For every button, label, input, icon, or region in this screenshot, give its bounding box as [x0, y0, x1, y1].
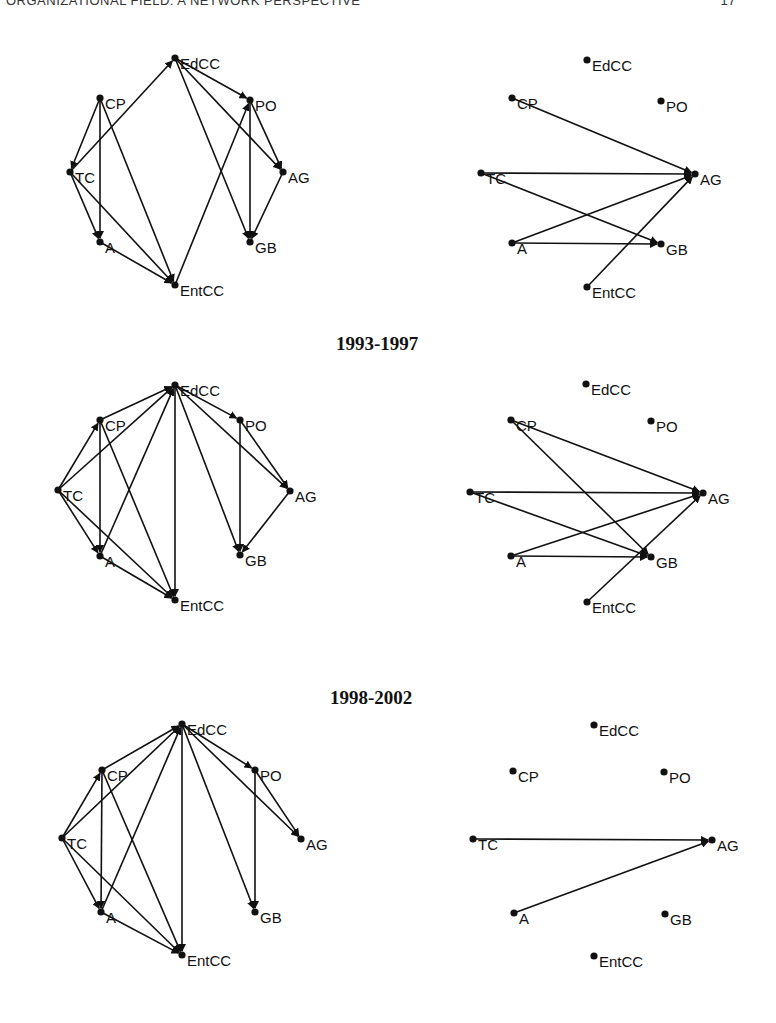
node-label-AG: AG — [717, 837, 739, 854]
node-label-EntCC: EntCC — [180, 282, 224, 299]
node-AG — [699, 489, 706, 496]
node-label-CP: CP — [107, 767, 128, 784]
network-row3-left: EdCCCPPOTCAGAGBEntCC — [58, 720, 327, 969]
node-TC — [58, 834, 65, 841]
node-EdCC — [590, 721, 597, 728]
node-PO — [660, 768, 667, 775]
node-label-CP: CP — [518, 768, 539, 785]
node-A — [97, 908, 104, 915]
edge-TC-to-GB — [470, 492, 647, 556]
node-label-EdCC: EdCC — [180, 55, 220, 72]
edge-TC-to-EdCC — [58, 388, 172, 490]
edge-CP-to-AG — [512, 98, 691, 172]
node-A — [508, 239, 515, 246]
edge-EdCC-to-GB — [182, 724, 254, 908]
node-A — [510, 909, 517, 916]
node-CP — [96, 94, 103, 101]
node-label-EdCC: EdCC — [599, 722, 639, 739]
node-label-AG: AG — [700, 171, 722, 188]
edge-TC-to-AG — [481, 173, 691, 174]
node-label-AG: AG — [306, 836, 328, 853]
node-label-EntCC: EntCC — [180, 597, 224, 614]
node-GB — [657, 240, 664, 247]
node-label-PO: PO — [669, 769, 691, 786]
node-label-GB: GB — [666, 241, 688, 258]
network-row2-left: EdCCCPPOTCAGAGBEntCC — [54, 381, 316, 614]
node-A — [96, 238, 103, 245]
edge-A-to-GB — [511, 556, 647, 557]
node-label-GB: GB — [670, 911, 692, 928]
network-row2-right: EdCCCPPOTCAGAGBEntCC — [466, 380, 729, 616]
node-label-GB: GB — [260, 909, 282, 926]
edge-A-to-GB — [512, 243, 657, 244]
node-label-A: A — [517, 240, 527, 257]
edge-TC-to-GB — [481, 173, 657, 243]
edge-A-to-AG — [514, 841, 708, 913]
node-label-TC: TC — [67, 835, 87, 852]
node-TC — [469, 835, 476, 842]
node-label-EdCC: EdCC — [180, 382, 220, 399]
node-GB — [236, 551, 243, 558]
node-label-TC: TC — [75, 169, 95, 186]
node-PO — [657, 97, 664, 104]
node-EntCC — [583, 283, 590, 290]
node-label-PO: PO — [245, 417, 267, 434]
node-label-PO: PO — [656, 418, 678, 435]
network-row1-right: EdCCCPPOTCAGAGBEntCC — [477, 56, 721, 301]
edge-EdCC-to-AG — [175, 385, 287, 488]
node-label-EdCC: EdCC — [592, 57, 632, 74]
node-label-CP: CP — [105, 95, 126, 112]
node-label-A: A — [519, 910, 529, 927]
edge-AG-to-GB — [242, 491, 290, 552]
node-label-PO: PO — [255, 97, 277, 114]
edge-EntCC-to-AG — [587, 177, 692, 287]
node-label-TC: TC — [486, 170, 506, 187]
edge-TC-to-CP — [58, 423, 98, 490]
node-A — [96, 552, 103, 559]
node-CP — [96, 416, 103, 423]
node-label-CP: CP — [517, 95, 538, 112]
node-label-EntCC: EntCC — [592, 284, 636, 301]
node-AG — [279, 168, 286, 175]
node-PO — [236, 416, 243, 423]
node-EdCC — [171, 54, 178, 61]
network-row3-right: EdCCCPPOTCAGAGBEntCC — [469, 721, 738, 970]
node-GB — [251, 908, 258, 915]
edge-AG-to-GB — [252, 172, 283, 238]
node-label-CP: CP — [516, 417, 537, 434]
node-label-TC: TC — [63, 487, 83, 504]
node-AG — [286, 487, 293, 494]
edge-TC-to-EntCC — [58, 490, 172, 597]
edge-CP-to-EdCC — [100, 387, 171, 420]
node-label-A: A — [106, 909, 116, 926]
edge-TC-to-AG — [470, 492, 699, 493]
node-CP — [507, 416, 514, 423]
node-GB — [246, 238, 253, 245]
node-label-GB: GB — [255, 239, 277, 256]
network-diagrams: EdCCCPPOTCAGAGBEntCC EdCCCPPOTCAGAGBEntC… — [0, 0, 776, 1023]
node-AG — [691, 170, 698, 177]
node-PO — [251, 766, 258, 773]
node-label-AG: AG — [708, 490, 730, 507]
node-TC — [466, 488, 473, 495]
node-CP — [98, 766, 105, 773]
edge-TC-to-EntCC — [62, 838, 179, 952]
edge-EntCC-to-PO — [175, 104, 248, 285]
node-label-EntCC: EntCC — [599, 953, 643, 970]
node-label-GB: GB — [245, 552, 267, 569]
edge-EdCC-to-GB — [175, 385, 239, 551]
node-TC — [54, 486, 61, 493]
node-EdCC — [582, 380, 589, 387]
node-EntCC — [178, 951, 185, 958]
edge-A-to-EdCC — [100, 389, 173, 556]
node-EdCC — [171, 381, 178, 388]
node-label-PO: PO — [666, 98, 688, 115]
edge-TC-to-EdCC — [70, 61, 172, 172]
node-label-GB: GB — [656, 554, 678, 571]
node-AG — [708, 836, 715, 843]
edge-TC-to-AG — [473, 839, 708, 840]
node-label-TC: TC — [475, 489, 495, 506]
node-label-A: A — [105, 239, 115, 256]
edge-CP-to-A — [101, 770, 102, 908]
node-GB — [647, 553, 654, 560]
